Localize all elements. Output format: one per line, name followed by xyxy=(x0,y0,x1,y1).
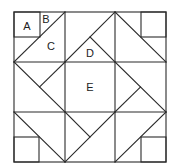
label-a: A xyxy=(23,20,31,32)
label-b: B xyxy=(42,13,49,25)
label-d: D xyxy=(86,47,94,59)
half-diagonal-bottom-middle xyxy=(65,112,90,137)
small-square-bottom-right xyxy=(141,137,166,162)
small-square-bottom-left xyxy=(14,137,39,162)
small-square-top-right xyxy=(141,12,166,37)
quilt-block-diagram: A B C D E xyxy=(0,0,181,168)
label-c: C xyxy=(47,40,55,52)
half-diagonal-middle-left xyxy=(40,62,66,87)
label-e: E xyxy=(86,81,93,93)
half-diagonal-middle-right xyxy=(115,87,141,112)
